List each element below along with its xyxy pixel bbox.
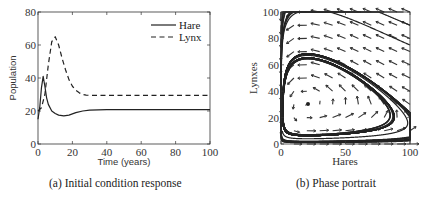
y-tick-label: 20 — [268, 112, 280, 124]
x-tick-label: 100 — [202, 146, 219, 158]
y-tick-label: 60 — [25, 39, 37, 51]
y-tick-label: 80 — [268, 32, 280, 44]
chart-b-tick-labels: 050100020406080100 — [263, 6, 419, 158]
x-tick-label: 0 — [278, 146, 284, 158]
series-hare-line — [38, 76, 210, 119]
chart-a-ylabel: Population — [7, 56, 18, 101]
y-tick-label: 100 — [263, 6, 280, 18]
chart-b-caption: (b) Phase portrait — [296, 177, 376, 189]
y-tick-label: 40 — [268, 85, 280, 97]
y-tick-label: 60 — [268, 59, 280, 71]
chart-a-xlabel: Time (years) — [98, 156, 151, 167]
chart-b-vector-field — [279, 8, 419, 145]
x-tick-label: 80 — [170, 146, 182, 158]
series-lynx-line — [38, 37, 210, 111]
figure: 020406080100020406080 Hare Lynx Time (ye… — [0, 0, 428, 200]
chart-b-equilibrium-point — [306, 102, 310, 106]
chart-b: 050100020406080100 Hares Lynxes — [247, 6, 419, 167]
x-tick-label: 100 — [402, 146, 419, 158]
chart-b-xlabel: Hares — [332, 155, 358, 167]
y-tick-label: 80 — [25, 6, 37, 18]
legend-lynx-label: Lynx — [179, 31, 202, 43]
chart-a-caption: (a) Initial condition response — [49, 177, 182, 189]
chart-b-ylabel: Lynxes — [247, 62, 259, 94]
trajectory-line — [282, 55, 407, 138]
x-tick-label: 20 — [67, 146, 79, 158]
chart-a-lines — [38, 37, 210, 120]
legend-hare-label: Hare — [179, 19, 200, 31]
chart-a-legend: Hare Lynx — [151, 19, 202, 43]
chart-a: 020406080100020406080 Hare Lynx Time (ye… — [7, 6, 219, 167]
y-tick-label: 0 — [274, 138, 280, 150]
y-tick-label: 0 — [31, 138, 37, 150]
y-tick-label: 40 — [25, 72, 37, 84]
y-tick-label: 20 — [25, 105, 37, 117]
x-tick-label: 0 — [35, 146, 41, 158]
